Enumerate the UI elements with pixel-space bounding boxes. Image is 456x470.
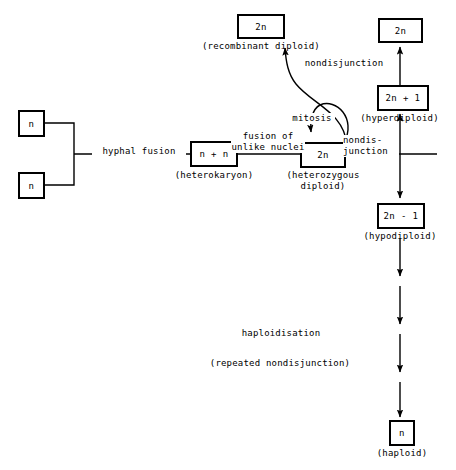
node-haploid[interactable]: n — [389, 420, 415, 446]
edge-label-mitosis: mitosis — [289, 113, 335, 124]
node-label: n — [399, 428, 405, 438]
caption-recombinant-diploid: (recombinant diploid) — [190, 41, 332, 52]
node-hypodiploid[interactable]: 2n - 1 — [377, 203, 425, 229]
node-label: n — [29, 119, 35, 129]
node-label: n + n — [199, 149, 228, 159]
caption-hypodiploid: (hypodiploid) — [345, 231, 455, 242]
node-n-left-bottom[interactable]: n — [18, 172, 45, 199]
node-label: 2n + 1 — [386, 93, 421, 103]
edge-label-fusion-unlike-nuclei: fusion of unlike nuclei — [231, 131, 305, 153]
node-label: 2n — [317, 150, 329, 160]
edge-label-hyphal-fusion: hyphal fusion — [92, 146, 186, 157]
caption-haploid: (haploid) — [358, 448, 446, 459]
caption-heterozygous-diploid: (heterozygous diploid) — [266, 170, 380, 192]
diagram-canvas: n n n + n 2n 2n 2n 2n + 1 2n - 1 n (hete… — [0, 0, 456, 470]
node-diploid-top[interactable]: 2n — [378, 18, 423, 43]
node-recombinant-diploid[interactable]: 2n — [237, 14, 285, 39]
edge-label-nondisjunction-right: nondis- junction — [343, 135, 399, 157]
edge-label-nondisjunction-top: nondisjunction — [296, 58, 392, 69]
edge-label-haploidisation: haploidisation — [207, 328, 355, 339]
node-label: 2n — [255, 22, 267, 32]
node-label: 2n - 1 — [384, 211, 419, 221]
node-n-left-top[interactable]: n — [18, 110, 45, 137]
node-hyperdiploid[interactable]: 2n + 1 — [377, 85, 429, 111]
edge-label-repeated-nondisjunction: (repeated nondisjunction) — [185, 358, 375, 369]
node-label: 2n — [395, 26, 407, 36]
node-label: n — [29, 181, 35, 191]
caption-heterokaryon: (heterokaryon) — [156, 170, 272, 181]
node-heterozygous-diploid[interactable]: 2n — [300, 142, 346, 168]
caption-hyperdiploid: (hyperdiploid) — [343, 113, 456, 124]
